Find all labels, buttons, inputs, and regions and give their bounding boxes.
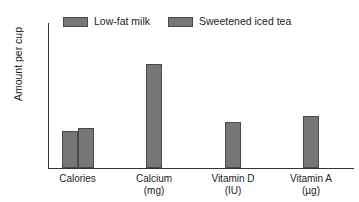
x-tick-label: Vitamin D(IU) [188,173,278,197]
x-tick-label-unit: (IU) [188,185,278,197]
bar [62,131,78,168]
legend-label: Sweetened iced tea [199,16,291,27]
x-tick-label-unit: (mg) [109,185,199,197]
bar [303,116,319,168]
bar-chart: Amount per cup 050100150200250300350400 … [0,0,359,202]
y-axis-title: Amount per cup [12,0,24,134]
x-tick-label-name: Vitamin D [211,173,254,184]
y-axis-line [48,23,49,169]
legend-entry[interactable]: Sweetened iced tea [168,16,291,27]
x-tick-label: Calcium(mg) [109,173,199,197]
legend-swatch-icon [168,17,193,27]
bar [146,64,162,168]
bar [78,128,94,168]
legend-entry[interactable]: Low-fat milk [63,16,150,27]
x-axis-line [48,168,354,169]
legend-label: Low-fat milk [94,16,150,27]
x-tick-label-name: Calories [59,173,96,184]
x-tick-label: Vitamin A(µg) [266,173,356,197]
x-tick-label-unit: (µg) [266,185,356,197]
x-tick-label-name: Calcium [136,173,172,184]
bar [225,122,241,168]
x-tick-label-name: Vitamin A [290,173,332,184]
chart-legend: Low-fat milkSweetened iced tea [63,16,291,27]
legend-swatch-icon [63,17,88,27]
